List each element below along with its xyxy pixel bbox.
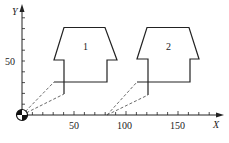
- x-tick-label-150: 150: [170, 120, 185, 131]
- x-tick-label-50: 50: [69, 120, 79, 131]
- coordinate-diagram: Y X 50 50 100 150 1 2: [0, 0, 229, 143]
- shape-2: [137, 28, 199, 96]
- shape-1: [54, 28, 117, 95]
- x-tick-label-100: 100: [117, 120, 132, 131]
- y-axis-label: Y: [12, 6, 19, 17]
- x-axis-label: X: [212, 119, 220, 130]
- x-axis-ticks: [32, 111, 209, 115]
- origin-marker-icon: [17, 110, 28, 121]
- shape-2-label: 2: [166, 41, 171, 52]
- y-tick-label-50: 50: [5, 56, 15, 67]
- projection-lines: [22, 82, 148, 115]
- x-axis-arrow-icon: [216, 113, 224, 118]
- y-axis-arrow-icon: [20, 4, 25, 12]
- shape-1-label: 1: [83, 41, 88, 52]
